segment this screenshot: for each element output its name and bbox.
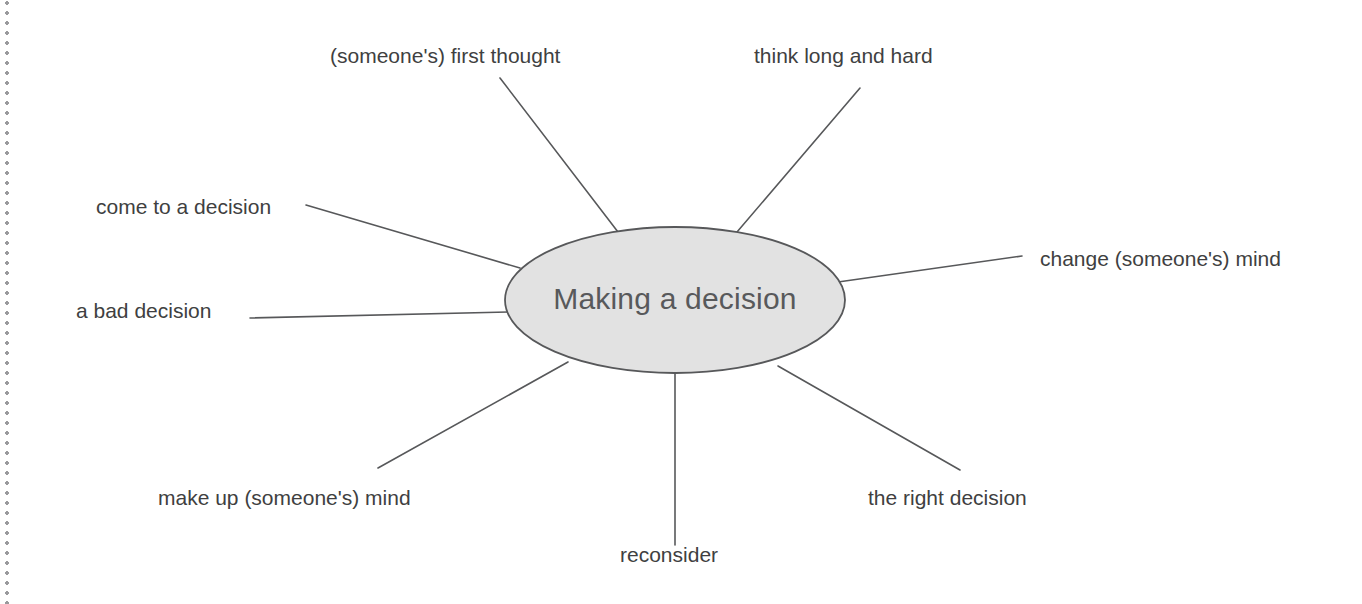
node-label-a-bad-decision: a bad decision xyxy=(76,300,211,321)
node-label-come-to-a-decision: come to a decision xyxy=(96,196,271,217)
center-label: Making a decision xyxy=(553,282,797,315)
connector-line-come-to-a-decision xyxy=(306,205,520,268)
connector-line-think-long-and-hard xyxy=(737,88,860,232)
connector-line-make-up-someones-mind xyxy=(378,362,568,468)
connector-line-change-someones-mind xyxy=(838,256,1022,282)
connector-line-first-thought xyxy=(500,78,618,232)
node-label-change-someones-mind: change (someone's) mind xyxy=(1040,248,1281,269)
node-label-reconsider: reconsider xyxy=(620,544,718,565)
node-label-the-right-decision: the right decision xyxy=(868,487,1027,508)
connector-line-a-bad-decision xyxy=(250,312,508,318)
node-label-make-up-someones-mind: make up (someone's) mind xyxy=(158,487,411,508)
mindmap-page: Making a decision (someone's) first thou… xyxy=(0,0,1362,604)
connector-line-the-right-decision xyxy=(778,366,960,470)
node-label-first-thought: (someone's) first thought xyxy=(330,45,560,66)
node-label-think-long-and-hard: think long and hard xyxy=(754,45,933,66)
